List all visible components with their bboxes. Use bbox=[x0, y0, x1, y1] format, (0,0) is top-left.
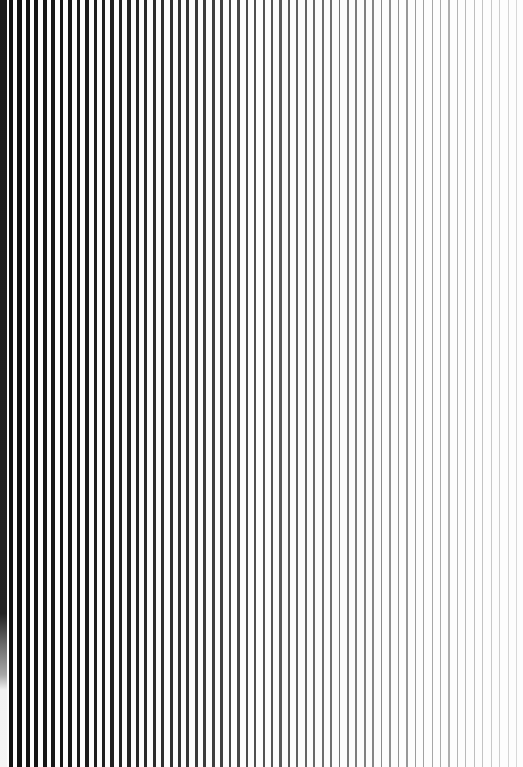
vertical-line bbox=[102, 0, 105, 767]
vertical-line bbox=[347, 0, 349, 767]
vertical-line bbox=[144, 0, 147, 767]
vertical-line bbox=[229, 0, 232, 767]
vertical-line bbox=[381, 0, 383, 767]
vertical-line bbox=[364, 0, 366, 767]
vertical-line bbox=[9, 0, 13, 767]
vertical-line bbox=[161, 0, 164, 767]
vertical-line bbox=[508, 0, 509, 767]
vertical-line bbox=[499, 0, 500, 767]
vertical-line bbox=[119, 0, 122, 767]
vertical-line bbox=[237, 0, 240, 767]
vertical-line bbox=[26, 0, 30, 767]
vertical-line bbox=[85, 0, 89, 767]
vertical-line bbox=[389, 0, 391, 767]
vertical-line bbox=[110, 0, 113, 767]
vertical-line bbox=[17, 0, 21, 767]
vertical-line bbox=[254, 0, 256, 767]
vertical-line bbox=[339, 0, 341, 767]
vertical-line bbox=[406, 0, 407, 767]
vertical-line bbox=[372, 0, 374, 767]
vertical-line bbox=[94, 0, 98, 767]
vertical-line bbox=[271, 0, 273, 767]
vertical-line bbox=[465, 0, 466, 767]
vertical-line bbox=[153, 0, 156, 767]
vertical-line bbox=[246, 0, 248, 767]
vertical-line bbox=[170, 0, 173, 767]
vertical-line bbox=[203, 0, 206, 767]
vertical-line bbox=[178, 0, 181, 767]
vertical-line bbox=[432, 0, 433, 767]
vertical-line bbox=[355, 0, 357, 767]
vertical-line bbox=[212, 0, 215, 767]
vertical-line bbox=[457, 0, 458, 767]
vertical-line bbox=[43, 0, 47, 767]
vertical-line bbox=[263, 0, 265, 767]
vertical-line bbox=[186, 0, 189, 767]
vertical-line bbox=[440, 0, 441, 767]
vertical-line bbox=[195, 0, 198, 767]
vertical-line bbox=[60, 0, 64, 767]
vertical-line bbox=[34, 0, 38, 767]
vertical-line bbox=[330, 0, 332, 767]
vertical-line bbox=[313, 0, 315, 767]
vertical-line bbox=[448, 0, 449, 767]
vertical-line bbox=[220, 0, 223, 767]
vertical-line bbox=[127, 0, 130, 767]
vertical-line bbox=[491, 0, 492, 767]
vertical-line bbox=[136, 0, 139, 767]
vertical-line bbox=[398, 0, 400, 767]
vertical-line bbox=[279, 0, 281, 767]
vertical-line bbox=[322, 0, 324, 767]
vertical-line bbox=[305, 0, 307, 767]
vertical-line bbox=[516, 0, 517, 767]
line-pattern-canvas bbox=[0, 0, 523, 767]
vertical-line bbox=[482, 0, 483, 767]
vertical-line bbox=[415, 0, 416, 767]
vertical-line bbox=[68, 0, 72, 767]
vertical-line bbox=[288, 0, 290, 767]
vertical-line bbox=[423, 0, 424, 767]
vertical-line bbox=[296, 0, 298, 767]
vertical-line bbox=[474, 0, 475, 767]
left-edge-shadow bbox=[0, 0, 7, 767]
vertical-line bbox=[77, 0, 81, 767]
vertical-line bbox=[51, 0, 55, 767]
